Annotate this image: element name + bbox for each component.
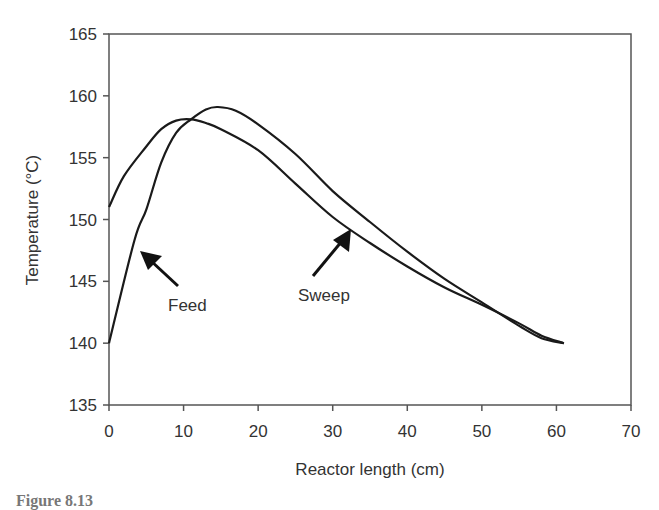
x-tick-label: 0 — [104, 422, 113, 441]
x-tick-label: 20 — [249, 422, 268, 441]
plot-frame — [109, 34, 631, 405]
y-axis-title: Temperature (°C) — [23, 155, 42, 286]
y-tick-label: 150 — [69, 211, 97, 230]
sweep-label: Sweep — [298, 286, 350, 305]
feed-arrow-shaft — [150, 260, 178, 286]
x-tick-label: 50 — [472, 422, 491, 441]
y-tick-label: 160 — [69, 87, 97, 106]
feed-annotation: Feed — [140, 251, 207, 315]
y-tick-label: 135 — [69, 396, 97, 415]
x-axis-title: Reactor length (cm) — [295, 460, 444, 479]
y-axis: 135140145150155160165 — [69, 25, 109, 415]
sweep-arrow-shaft — [313, 241, 342, 276]
x-tick-label: 30 — [323, 422, 342, 441]
sweep-annotation: Sweep — [298, 229, 351, 305]
x-tick-label: 70 — [622, 422, 641, 441]
y-tick-label: 140 — [69, 334, 97, 353]
x-axis: 010203040506070 — [104, 405, 640, 441]
y-tick-label: 165 — [69, 25, 97, 44]
y-tick-label: 145 — [69, 272, 97, 291]
x-tick-label: 40 — [398, 422, 417, 441]
x-tick-label: 60 — [547, 422, 566, 441]
figure-caption: Figure 8.13 — [16, 492, 93, 510]
x-tick-label: 10 — [174, 422, 193, 441]
y-tick-label: 155 — [69, 149, 97, 168]
feed-label: Feed — [168, 296, 207, 315]
